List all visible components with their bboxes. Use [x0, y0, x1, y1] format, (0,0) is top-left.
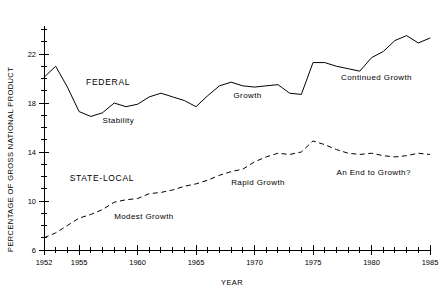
y-tick-label: 14	[28, 148, 36, 157]
chart-axes	[44, 26, 430, 250]
x-tick-label: 1980	[363, 258, 380, 267]
y-tick-label: 18	[28, 99, 36, 108]
x-tick-label: 1952	[36, 258, 53, 267]
annotation-rapid-growth: Rapid Growth	[231, 178, 285, 187]
x-tick-label: 1955	[71, 258, 88, 267]
gnp-line-chart: 610141822 195219551960196519701975198019…	[0, 0, 444, 289]
x-axis-title: YEAR	[221, 278, 243, 287]
chart-container: 610141822 195219551960196519701975198019…	[0, 0, 444, 289]
annotation-modest-growth: Modest Growth	[114, 212, 173, 221]
annotation-growth: Growth	[233, 91, 261, 100]
y-tick-label: 6	[32, 246, 36, 255]
y-axis-tick-labels: 610141822	[28, 50, 36, 255]
x-tick-label: 1960	[129, 258, 146, 267]
annotation-state-local: STATE-LOCAL	[70, 173, 135, 183]
y-tick-label: 22	[28, 50, 36, 59]
annotation-stability: Stability	[102, 116, 134, 125]
chart-annotations: FEDERALStabilityGrowthContinued GrowthST…	[70, 73, 412, 222]
annotation-an-end-to-growth: An End to Growth?	[336, 168, 411, 177]
x-axis-tick-labels: 19521955196019651970197519801985	[36, 258, 439, 267]
x-tick-label: 1970	[246, 258, 263, 267]
x-tick-label: 1965	[188, 258, 205, 267]
x-tick-label: 1975	[305, 258, 322, 267]
x-tick-label: 1985	[422, 258, 439, 267]
y-tick-label: 10	[28, 197, 36, 206]
series-line-state-local	[44, 141, 430, 238]
y-axis-title: PERCENTAGE OF GROSS NATIONAL PRODUCT	[6, 67, 15, 252]
annotation-continued-growth: Continued Growth	[341, 73, 412, 82]
annotation-federal: FEDERAL	[86, 77, 130, 87]
chart-tick-marks	[39, 30, 430, 256]
chart-series-lines	[44, 36, 430, 238]
